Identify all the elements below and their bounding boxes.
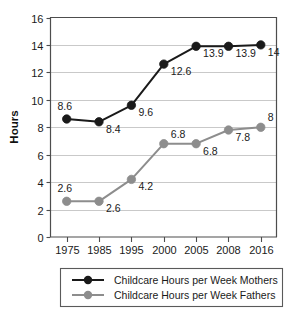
x-tick-label: 1985 bbox=[87, 244, 111, 256]
data-point bbox=[95, 118, 103, 126]
data-label: 13.9 bbox=[236, 47, 257, 59]
data-point bbox=[257, 123, 265, 131]
y-tick-label: 8 bbox=[37, 122, 43, 134]
legend-swatch-marker bbox=[84, 276, 92, 284]
data-label: 2.6 bbox=[57, 182, 72, 194]
data-label: 8 bbox=[268, 111, 274, 123]
data-label: 8.6 bbox=[57, 100, 72, 112]
data-label: 13.9 bbox=[203, 47, 224, 59]
chart-legend: Childcare Hours per Week MothersChildcar… bbox=[61, 269, 283, 307]
legend-label: Childcare Hours per Week Fathers bbox=[114, 289, 275, 301]
data-label: 7.8 bbox=[236, 131, 251, 143]
data-label: 14 bbox=[268, 46, 280, 58]
data-label: 2.6 bbox=[106, 202, 121, 214]
legend-label: Childcare Hours per Week Mothers bbox=[114, 274, 278, 286]
data-label: 6.8 bbox=[203, 145, 218, 157]
data-point bbox=[160, 60, 168, 68]
y-tick-label: 4 bbox=[37, 177, 43, 189]
line-chart: 0246810121416 19751985199520002005200820… bbox=[0, 0, 294, 313]
data-point bbox=[257, 41, 265, 49]
data-point bbox=[62, 197, 70, 205]
x-tick-label: 2008 bbox=[216, 244, 240, 256]
x-tick-label: 1995 bbox=[119, 244, 143, 256]
x-tick-label: 1975 bbox=[55, 244, 79, 256]
chart-canvas: 0246810121416 19751985199520002005200820… bbox=[0, 0, 294, 313]
y-tick-label: 16 bbox=[31, 13, 43, 25]
data-point bbox=[160, 140, 168, 148]
y-tick-label: 2 bbox=[37, 205, 43, 217]
y-axis-title: Hours bbox=[8, 110, 20, 143]
data-point bbox=[95, 197, 103, 205]
data-label: 9.6 bbox=[138, 106, 153, 118]
x-tick-label: 2000 bbox=[152, 244, 176, 256]
data-point bbox=[127, 175, 135, 183]
data-label: 8.4 bbox=[106, 123, 121, 135]
data-label: 12.6 bbox=[171, 65, 192, 77]
data-point bbox=[127, 101, 135, 109]
data-label: 6.8 bbox=[171, 128, 186, 140]
data-point bbox=[224, 126, 232, 134]
legend-swatch-marker bbox=[84, 291, 92, 299]
data-point bbox=[224, 42, 232, 50]
data-label: 4.2 bbox=[138, 180, 153, 192]
y-tick-label: 0 bbox=[37, 232, 43, 244]
y-tick-label: 12 bbox=[31, 67, 43, 79]
y-tick-label: 14 bbox=[31, 40, 43, 52]
y-tick-label: 10 bbox=[31, 95, 43, 107]
y-tick-label: 6 bbox=[37, 150, 43, 162]
x-tick-label: 2016 bbox=[249, 244, 273, 256]
data-point bbox=[62, 115, 70, 123]
x-tick-label: 2005 bbox=[184, 244, 208, 256]
data-point bbox=[192, 42, 200, 50]
data-point bbox=[192, 140, 200, 148]
